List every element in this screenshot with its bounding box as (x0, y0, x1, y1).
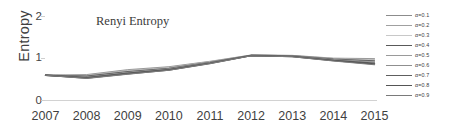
legend-swatch-icon (386, 45, 412, 46)
renyi-entropy-chart: Entropy 2 1 0 Renyi Entropy 200720082009… (0, 0, 449, 136)
x-axis-labels: 200720082009201020112012201320142015 (45, 108, 377, 128)
legend-item-9[interactable]: α=0.9 (386, 90, 448, 100)
legend-label: α=0.5 (415, 52, 429, 58)
legend: α=0.1α=0.2α=0.3α=0.4α=0.5α=0.6α=0.7α=0.8… (386, 10, 448, 100)
x-tick-label-2012: 2012 (231, 108, 271, 124)
legend-label: α=0.7 (415, 72, 429, 78)
legend-label: α=0.8 (415, 82, 429, 88)
legend-item-8[interactable]: α=0.8 (386, 80, 448, 90)
y-tick-label-0: 0 (22, 95, 42, 106)
legend-item-6[interactable]: α=0.6 (386, 60, 448, 70)
x-tick-label-2008: 2008 (67, 108, 107, 124)
series-line-4 (46, 55, 375, 76)
legend-label: α=0.4 (415, 42, 429, 48)
x-tick-label-2007: 2007 (26, 108, 66, 124)
legend-swatch-icon (386, 35, 412, 36)
legend-label: α=0.6 (415, 62, 429, 68)
x-tick-label-2015: 2015 (355, 108, 395, 124)
x-tick-label-2014: 2014 (313, 108, 353, 124)
y-tick-label-1: 1 (22, 52, 42, 63)
legend-label: α=0.2 (415, 22, 429, 28)
legend-item-2[interactable]: α=0.2 (386, 20, 448, 30)
legend-swatch-icon (386, 65, 412, 66)
legend-swatch-icon (386, 55, 412, 56)
legend-item-3[interactable]: α=0.3 (386, 30, 448, 40)
legend-swatch-icon (386, 75, 412, 76)
legend-item-1[interactable]: α=0.1 (386, 10, 448, 20)
legend-item-4[interactable]: α=0.4 (386, 40, 448, 50)
legend-swatch-icon (386, 95, 412, 96)
legend-item-7[interactable]: α=0.7 (386, 70, 448, 80)
legend-swatch-icon (386, 85, 412, 86)
y-tick-label-2: 2 (22, 11, 42, 22)
x-axis-line (45, 100, 377, 101)
legend-swatch-icon (386, 25, 412, 26)
series-lines (45, 10, 375, 100)
x-tick-label-2013: 2013 (272, 108, 312, 124)
legend-swatch-icon (386, 15, 412, 16)
legend-label: α=0.1 (415, 12, 429, 18)
x-tick-label-2009: 2009 (108, 108, 148, 124)
x-tick-label-2011: 2011 (190, 108, 230, 124)
legend-item-5[interactable]: α=0.5 (386, 50, 448, 60)
legend-label: α=0.9 (415, 92, 429, 98)
legend-label: α=0.3 (415, 32, 429, 38)
x-tick-label-2010: 2010 (149, 108, 189, 124)
plot-area (45, 10, 375, 100)
